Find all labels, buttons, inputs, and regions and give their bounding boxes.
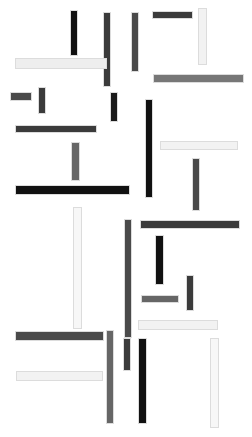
bar-horizontal-23 — [138, 320, 218, 330]
artwork-canvas — [0, 0, 252, 437]
bar-vertical-17 — [73, 207, 82, 329]
bar-horizontal-07 — [153, 74, 244, 83]
bar-vertical-15 — [192, 158, 200, 211]
bar-horizontal-19 — [140, 220, 240, 229]
bar-vertical-14 — [71, 142, 80, 181]
bar-horizontal-09 — [10, 92, 32, 101]
bar-horizontal-06 — [15, 58, 107, 69]
bar-vertical-11 — [145, 99, 153, 198]
bar-vertical-08 — [38, 87, 46, 114]
bar-vertical-20 — [155, 235, 164, 285]
bar-vertical-24 — [106, 330, 114, 424]
bar-horizontal-29 — [16, 371, 103, 381]
bar-horizontal-12 — [15, 125, 97, 133]
bar-horizontal-22 — [141, 295, 179, 303]
bar-horizontal-03 — [152, 11, 193, 19]
bar-vertical-05 — [131, 12, 139, 72]
bar-vertical-04 — [198, 8, 207, 65]
bar-horizontal-16 — [15, 185, 130, 195]
bar-vertical-27 — [138, 338, 147, 424]
bar-vertical-01 — [70, 10, 78, 56]
bar-vertical-10 — [110, 92, 118, 122]
bar-vertical-21 — [186, 275, 194, 311]
bar-vertical-18 — [124, 219, 132, 338]
bar-horizontal-13 — [160, 141, 238, 150]
bar-horizontal-25 — [15, 331, 104, 341]
bar-vertical-02 — [103, 12, 111, 87]
bar-vertical-28 — [210, 338, 219, 428]
bar-vertical-26 — [123, 338, 131, 371]
